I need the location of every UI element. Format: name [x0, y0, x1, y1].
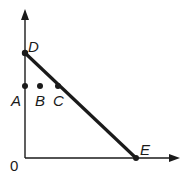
- point-e: [133, 155, 139, 161]
- point-a: [22, 83, 28, 89]
- label-d: D: [28, 38, 39, 55]
- y-axis-arrow-icon: [21, 9, 29, 20]
- origin-label: 0: [10, 157, 18, 174]
- label-a: A: [10, 92, 21, 109]
- coordinate-diagram: D A B C E 0: [0, 0, 185, 175]
- point-c: [55, 83, 61, 89]
- x-axis-arrow-icon: [169, 154, 180, 162]
- label-c: C: [53, 92, 64, 109]
- label-b: B: [35, 92, 45, 109]
- label-e: E: [140, 141, 151, 158]
- point-b: [37, 83, 43, 89]
